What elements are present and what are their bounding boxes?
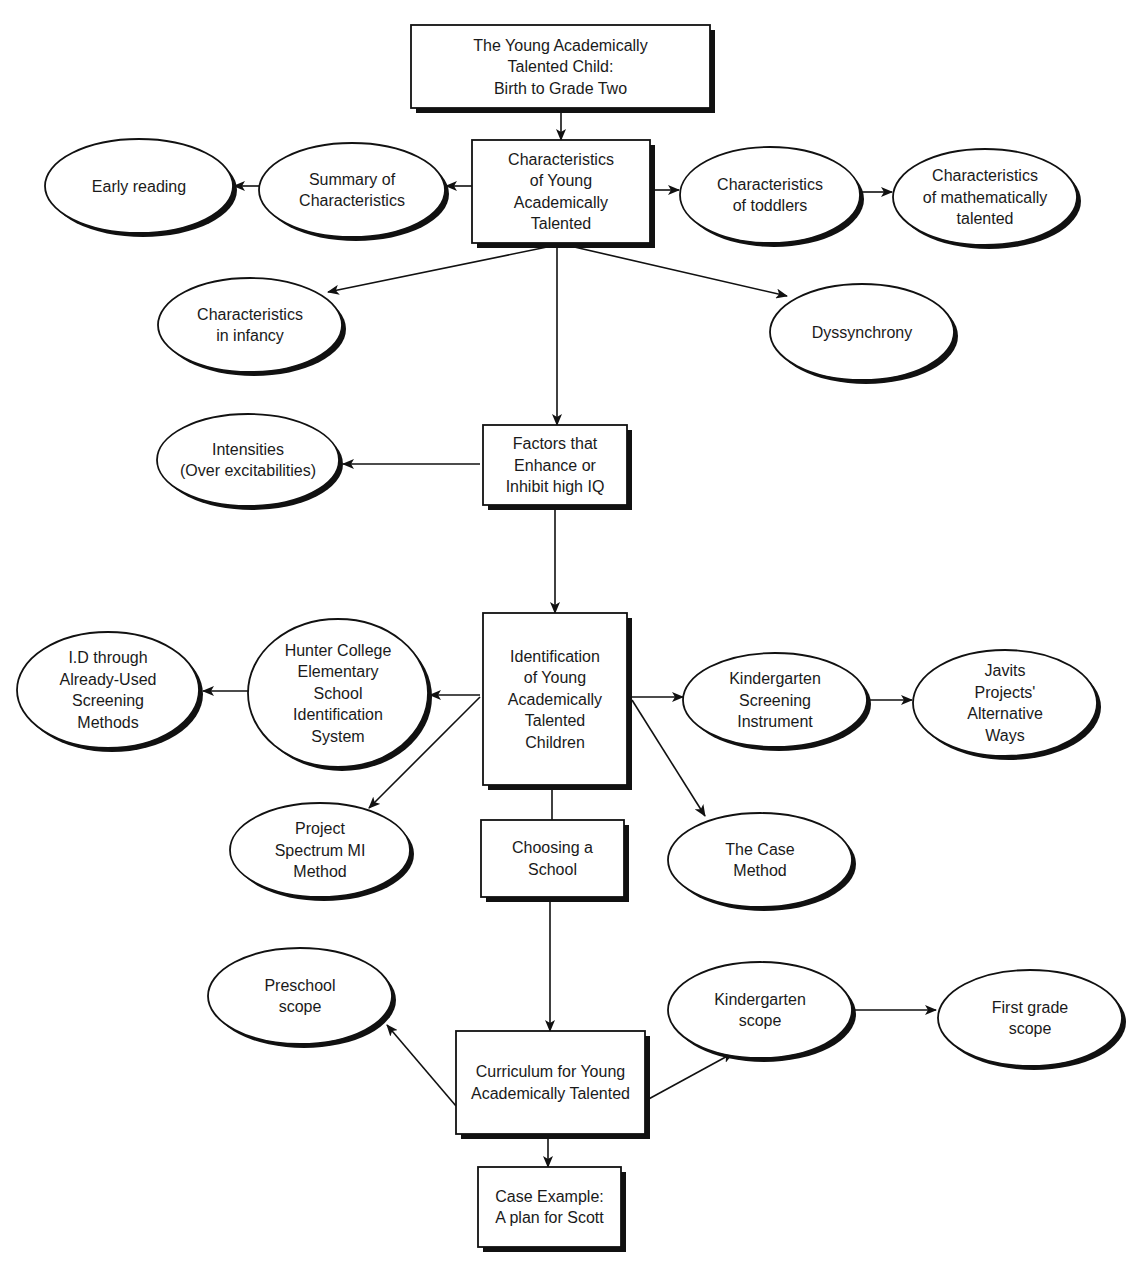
- node-label-line: Children: [525, 734, 585, 751]
- node-kinder-scope: Kindergartenscope: [668, 962, 856, 1062]
- node-label-line: Academically: [508, 691, 602, 708]
- box-shape: [481, 820, 624, 897]
- node-label: Early reading: [92, 178, 186, 195]
- ellipse-shape: [157, 414, 339, 506]
- node-label-line: scope: [1009, 1020, 1052, 1037]
- node-label-line: Choosing a: [512, 839, 593, 856]
- node-label-line: Early reading: [92, 178, 186, 195]
- node-label-line: of mathematically: [923, 189, 1048, 206]
- node-label-line: Birth to Grade Two: [494, 80, 627, 97]
- node-label-line: Elementary: [298, 663, 379, 680]
- ellipse-shape: [259, 143, 445, 237]
- node-label-line: Talented: [525, 712, 586, 729]
- node-case-example: Case Example:A plan for Scott: [478, 1167, 626, 1252]
- ellipse-shape: [208, 948, 392, 1044]
- node-math-talented: Characteristicsof mathematicallytalented: [893, 149, 1081, 249]
- concept-map: The Young AcademicallyTalented Child:Bir…: [0, 0, 1146, 1276]
- edge-curriculum-to-preschool: [387, 1025, 456, 1106]
- node-label-line: Summary of: [309, 171, 396, 188]
- node-label-line: Identification: [293, 706, 383, 723]
- node-label-line: Characteristics: [717, 176, 823, 193]
- node-label-line: Alternative: [967, 705, 1043, 722]
- nodes-layer: The Young AcademicallyTalented Child:Bir…: [17, 25, 1126, 1252]
- node-label-line: Hunter College: [285, 642, 392, 659]
- node-label-line: Academically Talented: [471, 1085, 630, 1102]
- node-label-line: The Case: [725, 841, 794, 858]
- node-first-grade: First gradescope: [938, 970, 1126, 1070]
- node-toddlers: Characteristicsof toddlers: [680, 147, 864, 247]
- node-label-line: in infancy: [216, 327, 284, 344]
- node-label-line: Characteristics: [932, 167, 1038, 184]
- node-label-line: Methods: [77, 714, 138, 731]
- node-label-line: Case Example:: [495, 1188, 604, 1205]
- node-dyssynchrony: Dyssynchrony: [770, 284, 958, 384]
- node-label-line: Screening: [72, 692, 144, 709]
- node-label-line: Preschool: [264, 977, 335, 994]
- node-early-reading: Early reading: [45, 139, 237, 237]
- node-intensities: Intensities(Over excitabilities): [157, 414, 343, 510]
- box-shape: [456, 1031, 645, 1134]
- node-label-line: System: [311, 728, 364, 745]
- node-label-line: Academically: [514, 194, 608, 211]
- ellipse-shape: [680, 147, 860, 243]
- node-summary: Summary ofCharacteristics: [259, 143, 449, 241]
- node-characteristics: Characteristicsof YoungAcademicallyTalen…: [472, 140, 655, 248]
- node-label-line: School: [528, 861, 577, 878]
- node-label-line: Characteristics: [508, 151, 614, 168]
- node-label-line: Already-Used: [60, 671, 157, 688]
- node-label: Factors thatEnhance orInhibit high IQ: [506, 435, 605, 495]
- node-label-line: Javits: [985, 662, 1026, 679]
- node-label-line: Talented Child:: [508, 58, 614, 75]
- node-label-line: Characteristics: [299, 192, 405, 209]
- node-curriculum: Curriculum for YoungAcademically Talente…: [456, 1031, 650, 1139]
- node-label-line: scope: [279, 998, 322, 1015]
- node-case-method: The CaseMethod: [668, 813, 856, 911]
- node-label-line: Dyssynchrony: [812, 324, 912, 341]
- node-label-line: talented: [957, 210, 1014, 227]
- node-label-line: Project: [295, 820, 345, 837]
- node-label-line: Intensities: [212, 441, 284, 458]
- node-label: KindergartenScreeningInstrument: [729, 670, 821, 730]
- node-label-line: Spectrum MI: [275, 842, 366, 859]
- node-kinder-screening: KindergartenScreeningInstrument: [683, 653, 871, 751]
- node-label-line: of Young: [530, 172, 592, 189]
- node-label: Dyssynchrony: [812, 324, 912, 341]
- node-label-line: Projects': [975, 684, 1036, 701]
- node-label-line: Inhibit high IQ: [506, 478, 605, 495]
- node-label-line: of Young: [524, 669, 586, 686]
- node-infancy: Characteristicsin infancy: [158, 278, 346, 376]
- node-label-line: Factors that: [513, 435, 598, 452]
- node-label-line: of toddlers: [733, 197, 808, 214]
- node-id-screening: I.D throughAlready-UsedScreeningMethods: [17, 632, 203, 752]
- node-label-line: First grade: [992, 999, 1069, 1016]
- node-choosing: Choosing aSchool: [481, 820, 629, 902]
- node-label-line: Screening: [739, 692, 811, 709]
- node-label-line: Enhance or: [514, 457, 597, 474]
- node-title: The Young AcademicallyTalented Child:Bir…: [411, 25, 715, 113]
- node-label-line: scope: [739, 1012, 782, 1029]
- edge-characteristics-to-dyssynchrony: [570, 246, 787, 296]
- node-factors: Factors thatEnhance orInhibit high IQ: [483, 425, 632, 510]
- node-label-line: (Over excitabilities): [180, 462, 316, 479]
- node-label-line: Identification: [510, 648, 600, 665]
- node-label-line: Kindergarten: [714, 991, 806, 1008]
- node-project-spectrum: ProjectSpectrum MIMethod: [230, 803, 414, 901]
- edge-curriculum-to-kinder-scope: [645, 1053, 733, 1101]
- node-identification: Identificationof YoungAcademicallyTalent…: [483, 613, 632, 790]
- node-label-line: Talented: [531, 215, 592, 232]
- node-label-line: School: [314, 685, 363, 702]
- node-label-line: Kindergarten: [729, 670, 821, 687]
- ellipse-shape: [668, 962, 852, 1058]
- ellipse-shape: [668, 813, 852, 907]
- box-shape: [478, 1167, 621, 1247]
- node-label-line: Method: [293, 863, 346, 880]
- node-label-line: A plan for Scott: [495, 1209, 604, 1226]
- node-preschool: Preschoolscope: [208, 948, 396, 1048]
- edge-characteristics-to-infancy: [328, 246, 552, 292]
- node-label-line: Characteristics: [197, 306, 303, 323]
- node-hunter: Hunter CollegeElementarySchoolIdentifica…: [248, 619, 432, 771]
- node-label-line: Instrument: [737, 713, 813, 730]
- node-label-line: Method: [733, 862, 786, 879]
- node-label-line: Curriculum for Young: [476, 1063, 625, 1080]
- node-label-line: Ways: [985, 727, 1024, 744]
